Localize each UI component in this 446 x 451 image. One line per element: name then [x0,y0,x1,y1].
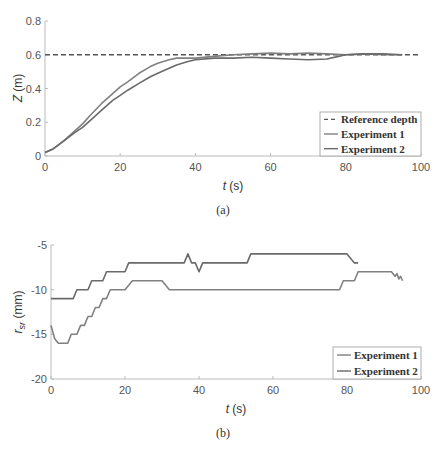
y-axis-label-b: rsr (mm) [11,291,27,334]
x-tick-label: 0 [42,161,48,173]
y-tick-label: -5 [37,239,47,251]
legend-label: Reference depth [341,113,417,125]
y-tick-label: -20 [31,373,47,385]
x-tick-label: 40 [193,384,205,396]
x-tick-label: 60 [264,161,276,173]
y-tick-label: 0.4 [26,83,41,95]
x-tick-label: 100 [412,161,430,173]
legend-label: Experiment 1 [354,349,418,361]
legend-b: Experiment 1Experiment 2 [333,347,421,379]
legend-label: Experiment 1 [341,128,405,140]
y-tick-label: 0.8 [26,15,41,27]
series-line-experiment-1 [51,272,403,344]
y-tick-label: 0 [35,150,41,162]
x-axis-label-b: t (s) [226,402,247,416]
y-tick-label: 0.6 [26,49,41,61]
legend-label: Experiment 2 [354,365,418,377]
x-tick-label: 60 [267,384,279,396]
x-tick-label: 80 [340,161,352,173]
x-tick-label: 0 [48,384,54,396]
y-axis-label-a: Z (m) [11,74,25,104]
chart-panel-a: 02040608010000.20.40.60.8 Reference dept… [11,15,430,217]
x-tick-label: 20 [114,161,126,173]
caption-b: (b) [216,426,230,440]
figure: 02040608010000.20.40.60.8 Reference dept… [0,0,446,451]
y-tick-label: 0.2 [26,116,41,128]
x-axis-label-a: t (s) [223,179,244,193]
caption-a: (a) [216,203,229,217]
plot-lines-b [51,254,403,343]
legend-a: Reference depthExperiment 1Experiment 2 [320,112,421,156]
x-tick-label: 100 [412,384,430,396]
legend-label: Experiment 2 [341,143,405,155]
chart-panel-b: 020406080100-20-15-10-5 Experiment 1Expe… [11,239,430,440]
x-tick-label: 20 [119,384,131,396]
series-line-experiment-2 [51,254,358,299]
x-tick-label: 80 [341,384,353,396]
y-tick-label: -10 [31,284,47,296]
x-tick-label: 40 [189,161,201,173]
y-tick-label: -15 [31,328,47,340]
